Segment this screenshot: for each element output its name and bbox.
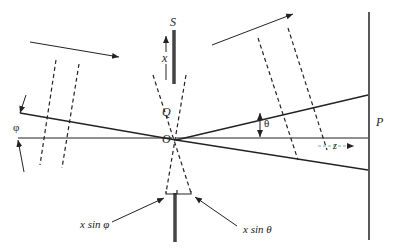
phi-arrow-bottom <box>18 140 24 172</box>
label-origin: O <box>162 132 171 146</box>
incident-ray <box>20 113 176 140</box>
label-phi: φ <box>13 121 19 133</box>
label-source: S <box>170 15 176 29</box>
xsinphi-pointer <box>112 198 164 222</box>
diffraction-diagram: S x Q O θ φ z P x sin φ x sin θ <box>0 0 398 250</box>
diffracted-ray-down <box>176 140 368 170</box>
label-q: Q <box>162 105 171 119</box>
label-theta: θ <box>264 117 269 129</box>
label-xsintheta: x sin θ <box>242 223 272 235</box>
slit-barrier <box>174 30 175 242</box>
phi-arrow-top <box>20 95 26 113</box>
label-x: x <box>161 51 168 65</box>
incident-wavefronts <box>40 60 79 168</box>
xsintheta-pointer <box>195 197 237 226</box>
label-xsinphi: x sin φ <box>79 218 109 230</box>
diffracted-ray-up <box>176 95 368 140</box>
path-difference-bracket <box>166 191 191 194</box>
label-screen: P <box>375 115 384 129</box>
label-z: z <box>332 140 337 151</box>
diffracted-direction-arrow <box>212 14 293 45</box>
incident-direction-arrow <box>30 42 119 57</box>
diffracted-wavefronts <box>258 28 327 160</box>
aperture-dashed-lines <box>153 75 191 193</box>
